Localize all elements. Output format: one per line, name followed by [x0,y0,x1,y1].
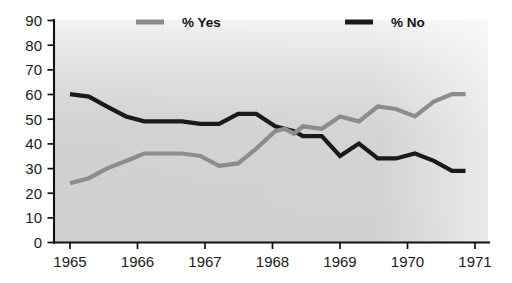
x-tick-label-1971: 1971 [458,253,491,270]
y-axis-tick-labels: 90 80 70 60 50 40 30 20 10 0 [25,12,42,251]
y-tick-label-70: 70 [25,61,42,78]
y-tick-label-20: 20 [25,185,42,202]
y-tick-label-10: 10 [25,209,42,226]
legend-label-pct-no: % No [391,15,425,30]
legend-label-pct-yes: % Yes [182,15,221,30]
x-tick-label-1965: 1965 [53,253,86,270]
y-tick-label-0: 0 [34,234,42,251]
x-axis-tick-labels: 1965 1966 1967 1968 1969 1970 1971 [53,253,491,270]
x-tick-label-1969: 1969 [323,253,356,270]
plot-background-highlight [54,20,488,242]
y-tick-label-90: 90 [25,12,42,29]
chart-container: 90 80 70 60 50 40 30 20 10 0 1965 1966 1… [0,0,512,283]
line-chart: 90 80 70 60 50 40 30 20 10 0 1965 1966 1… [0,0,512,283]
x-tick-label-1968: 1968 [256,253,289,270]
x-tick-label-1970: 1970 [391,253,424,270]
x-tick-label-1966: 1966 [121,253,154,270]
x-tick-label-1967: 1967 [188,253,221,270]
y-tick-label-80: 80 [25,37,42,54]
y-tick-label-60: 60 [25,86,42,103]
y-tick-label-30: 30 [25,160,42,177]
y-tick-label-40: 40 [25,135,42,152]
y-tick-label-50: 50 [25,111,42,128]
